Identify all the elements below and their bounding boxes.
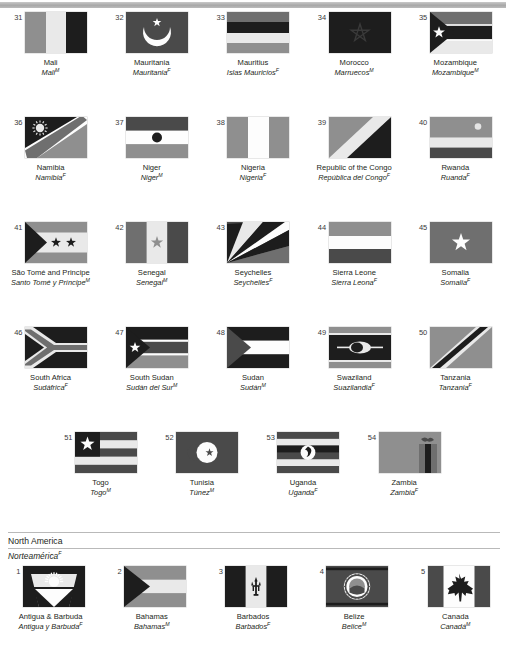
section-title-es-text: Norteamérica	[8, 551, 58, 561]
flag-entry-morocco[interactable]: 34MoroccoMarruecosM	[304, 12, 405, 77]
flag-image-zambia	[379, 432, 441, 473]
flag-block: 47	[101, 327, 202, 371]
flag-entry-bahamas[interactable]: 2BahamasBahamasM	[101, 566, 202, 631]
flag-caption: ZambiaZambiaF	[390, 479, 418, 497]
entry-number: 32	[115, 14, 123, 22]
flag-entry-antigua-barbuda[interactable]: 1Antigua & BarbudaAntigua y BarbudaF	[0, 566, 101, 631]
flag-entry-senegal[interactable]: 42SenegalSenegalM	[101, 222, 202, 287]
flag-caption: BahamasBahamasM	[134, 613, 170, 631]
flag-row: 1Antigua & BarbudaAntigua y BarbudaF2Bah…	[0, 566, 506, 631]
gender-marker: M	[474, 67, 479, 73]
country-name-es: Canadá	[440, 622, 466, 631]
flag-entry-somalia[interactable]: 45SomaliaSomaliaF	[405, 222, 506, 287]
country-name-es-line: MarruecosM	[334, 68, 373, 78]
entry-number: 3	[219, 568, 223, 576]
section-title-en-text: North America	[8, 536, 62, 546]
flag-entry-belize[interactable]: 4BelizeBeliceM	[304, 566, 405, 631]
top-rule	[0, 2, 506, 8]
entry-number: 36	[14, 119, 22, 127]
country-name-en: Rwanda	[441, 164, 470, 173]
flag-block: 31	[0, 12, 101, 56]
flag-entry-south-africa[interactable]: 46South AfricaSudáfricaF	[0, 327, 101, 392]
entry-number: 31	[14, 14, 22, 22]
country-name-es-line: Santo Tomé y PríncipeM	[11, 278, 90, 288]
country-name-es: Namibia	[35, 173, 62, 182]
section-title-en: North America	[8, 536, 500, 546]
entry-number: 41	[14, 224, 22, 232]
flag-entry-niger[interactable]: 37NigerNigerM	[101, 117, 202, 182]
entry-number: 4	[320, 568, 324, 576]
flag-entry-uganda[interactable]: 53UgandaUgandaF	[252, 432, 353, 497]
country-name-en: Sierra Leone	[331, 269, 377, 278]
flag-block: 43	[202, 222, 303, 266]
flag-entry-nigeria[interactable]: 38NigeriaNigeriaF	[202, 117, 303, 182]
country-name-es-line: Islas MauriciosF	[227, 68, 279, 78]
country-name-en: Mozambique	[432, 59, 479, 68]
gender-marker: F	[276, 67, 279, 73]
flag-block: 36	[0, 117, 101, 161]
flag-block: 44	[304, 222, 405, 266]
flag-block: 3	[202, 566, 303, 610]
entry-number: 51	[64, 434, 72, 442]
country-name-es-line: SomaliaF	[440, 278, 470, 288]
flag-block: 5	[405, 566, 506, 610]
flag-row: 51TogoTogoM52TunisiaTúnezM53UgandaUganda…	[50, 432, 455, 497]
flag-entry-rwanda[interactable]: 40RwandaRuandaF	[405, 117, 506, 182]
flag-image-senegal	[126, 222, 188, 263]
country-name-es-line: República del CongoF	[317, 173, 392, 183]
country-name-en: Tanzania	[439, 374, 472, 383]
country-name-es-line: TogoM	[90, 488, 111, 498]
flag-entry-namibia[interactable]: 36NamibiaNamibiaF	[0, 117, 101, 182]
flag-entry-zambia[interactable]: 54ZambiaZambiaF	[354, 432, 455, 497]
entry-number: 1	[16, 568, 20, 576]
flag-entry-republic-of-the-congo[interactable]: 39Republic of the CongoRepública del Con…	[304, 117, 405, 182]
flag-entry-tunisia[interactable]: 52TunisiaTúnezM	[151, 432, 252, 497]
flag-image-mozambique	[430, 12, 492, 53]
flag-entry-tanzania[interactable]: 50TanzaniaTanzaniaF	[405, 327, 506, 392]
entry-number: 53	[267, 434, 275, 442]
flag-entry-mozambique[interactable]: 35MozambiqueMozambiqueM	[405, 12, 506, 77]
entry-number: 5	[421, 568, 425, 576]
flag-entry-canada[interactable]: 5CanadaCanadáM	[405, 566, 506, 631]
flag-entry-sudan[interactable]: 48SudanSudánM	[202, 327, 303, 392]
country-name-es-line: MauritaniaF	[133, 68, 171, 78]
country-name-es-line: NigeriaF	[240, 173, 267, 183]
country-name-es: Antigua y Barbuda	[19, 622, 80, 631]
flag-caption: NigerNigerM	[141, 164, 163, 182]
flag-block: 49	[304, 327, 405, 371]
country-name-en: São Tomé and Principe	[11, 269, 90, 278]
flag-entry-south-sudan[interactable]: 47South SudanSudán del SurM	[101, 327, 202, 392]
flag-entry-barbados[interactable]: 3BarbadosBarbadosF	[202, 566, 303, 631]
flag-image-barbados	[225, 566, 287, 607]
country-name-es: Suazilandia	[333, 383, 371, 392]
flag-caption: Sierra LeoneSierra LeonaF	[331, 269, 377, 287]
flag-entry-seychelles[interactable]: 43SeychellesSeychellesF	[202, 222, 303, 287]
flag-block: 38	[202, 117, 303, 161]
flag-caption: MoroccoMarruecosM	[334, 59, 373, 77]
entry-number: 39	[318, 119, 326, 127]
country-name-es: Mali	[42, 68, 56, 77]
country-name-es: Nigeria	[240, 173, 263, 182]
country-name-es: Mauritania	[133, 68, 168, 77]
flag-image-somalia	[430, 222, 492, 263]
flag-entry-mauritania[interactable]: 32MauritaniaMauritaniaF	[101, 12, 202, 77]
country-name-es-line: CanadáM	[440, 622, 470, 632]
flag-entry-sierra-leone[interactable]: 44Sierra LeoneSierra LeonaF	[304, 222, 405, 287]
flag-entry-mauritius[interactable]: 33MauritiusIslas MauriciosF	[202, 12, 303, 77]
flag-caption: MozambiqueMozambiqueM	[432, 59, 479, 77]
flag-entry-mali[interactable]: 31MaliMaliM	[0, 12, 101, 77]
flag-entry-s-o-tom-and-principe[interactable]: 41São Tomé and PrincipeSanto Tomé y Prín…	[0, 222, 101, 287]
flag-block: 51	[50, 432, 151, 476]
flag-entry-togo[interactable]: 51TogoTogoM	[50, 432, 151, 497]
flag-block: 32	[101, 12, 202, 56]
gender-marker: F	[65, 382, 68, 388]
flag-entry-swaziland[interactable]: 49SwazilandSuazilandiaF	[304, 327, 405, 392]
country-name-es: Niger	[141, 173, 159, 182]
flag-image-morocco	[329, 12, 391, 53]
entry-number: 46	[14, 329, 22, 337]
flag-caption: SudanSudánM	[240, 374, 266, 392]
country-name-es-line: NigerM	[141, 173, 163, 183]
flag-image-sudan	[227, 327, 289, 368]
country-name-en: Barbados	[235, 613, 270, 622]
flag-image-seychelles	[227, 222, 289, 263]
